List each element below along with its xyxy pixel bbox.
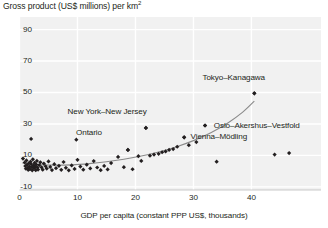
annotation-label: Tokyo–Kanagawa xyxy=(203,73,266,82)
y-axis-tick-label: 10 xyxy=(0,151,32,159)
y-axis-tick-label: -10 xyxy=(0,183,32,191)
chart-title-text: Gross product (US$ millions) per km xyxy=(3,1,138,11)
annotation-label: Ontario xyxy=(76,128,102,137)
x-axis-tick-label: 30 xyxy=(173,194,213,202)
x-axis-tick-label: 0 xyxy=(0,194,40,202)
x-axis-tick-label: 20 xyxy=(115,194,155,202)
scatter-plot-canvas xyxy=(0,0,328,228)
chart-title-superscript: 2 xyxy=(138,0,141,6)
chart-figure: Gross product (US$ millions) per km2 -10… xyxy=(0,0,328,228)
y-axis-tick-label: 30 xyxy=(0,120,32,128)
x-axis-tick-label: 10 xyxy=(57,194,97,202)
plot-background xyxy=(20,17,322,190)
y-axis-tick-label: 90 xyxy=(0,26,32,34)
chart-title: Gross product (US$ millions) per km2 xyxy=(3,1,141,11)
annotation-label: Vienna–Mödling xyxy=(191,132,248,141)
x-axis-tick-label: 40 xyxy=(231,194,271,202)
x-axis-title: GDP per capita (constant PPP US$, thousa… xyxy=(0,211,328,220)
annotation-label: New York–New Jersey xyxy=(68,107,147,116)
y-axis-tick-label: 70 xyxy=(0,57,32,65)
annotation-label: Oslo–Akershus–Vestfold xyxy=(214,121,300,130)
y-axis-tick-label: 50 xyxy=(0,88,32,96)
